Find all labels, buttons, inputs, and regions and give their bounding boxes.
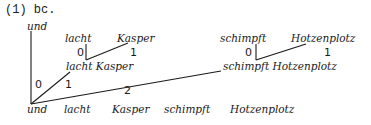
bottom-word-lacht: lacht xyxy=(64,104,90,115)
bottom-word-kasper: Kasper xyxy=(112,104,149,115)
right-combined: schimpft Hotzenplotz xyxy=(223,61,337,72)
bottom-word-hotzenplotz: Hotzenplotz xyxy=(230,104,294,115)
left-combined: lacht Kasper xyxy=(66,61,133,72)
bottom-word-schimpft: schimpft xyxy=(164,104,210,115)
root-index-1: 1 xyxy=(65,79,72,90)
root-index-0: 0 xyxy=(35,79,42,90)
left-index-0: 0 xyxy=(77,47,84,58)
bottom-word-und: und xyxy=(27,104,47,115)
right-index-1: 1 xyxy=(324,47,331,58)
root-top-word: und xyxy=(27,21,47,32)
left-word-kasper: Kasper xyxy=(117,33,154,44)
left-index-1: 1 xyxy=(130,47,137,58)
right-word-hotzenplotz: Hotzenplotz xyxy=(291,33,355,44)
root-index-2: 2 xyxy=(124,85,131,96)
right-word-schimpft: schimpft xyxy=(220,33,266,44)
right-index-0: 0 xyxy=(245,47,252,58)
left-word-lacht: lacht xyxy=(65,33,91,44)
